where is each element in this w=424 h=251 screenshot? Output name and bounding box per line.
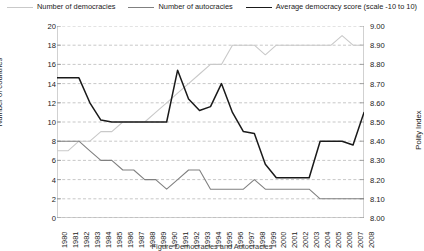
y-tick-label: 14 [48, 79, 56, 88]
y-tick-label: 8.70 [370, 79, 385, 88]
legend-item-autocracies: Number of autocracies [128, 3, 232, 11]
line-swatch-icon [7, 7, 33, 8]
y-tick-label: 8 [52, 137, 56, 146]
line-swatch-icon [246, 7, 272, 8]
series-line-0 [57, 36, 364, 151]
y-tick-label: 0 [52, 214, 56, 223]
chart-canvas [57, 26, 364, 218]
y-tick-label: 8.80 [370, 60, 385, 69]
y-tick-label: 16 [48, 60, 56, 69]
y-tick-label: 4 [52, 175, 56, 184]
y-tick-label: 8.40 [370, 137, 385, 146]
y-tick-label: 8.60 [370, 98, 385, 107]
legend-label-autocracies: Number of autocracies [158, 3, 232, 11]
y-tick-label: 2 [52, 194, 56, 203]
series-line-2 [57, 70, 364, 178]
y-tick-label: 10 [48, 118, 56, 127]
y-tick-label: 8.20 [370, 175, 385, 184]
y-axis-right-title: Polity Index [414, 85, 423, 175]
y-tick-label: 8.00 [370, 214, 385, 223]
y-tick-label: 20 [48, 22, 56, 31]
plot-area [57, 26, 364, 218]
legend-label-democracies: Number of democracies [37, 3, 115, 11]
chart-legend: Number of democracies Number of autocrac… [0, 0, 424, 14]
y-tick-label: 8.50 [370, 118, 385, 127]
y-tick-label: 12 [48, 98, 56, 107]
y-tick-label: 8.90 [370, 41, 385, 50]
chart-root: Number of democracies Number of autocrac… [0, 0, 424, 251]
figure-caption: Figure Democracies and Autocracies [0, 242, 424, 251]
y-tick-label: 6 [52, 156, 56, 165]
legend-item-democracy-score: Average democracy score (scale -10 to 10… [246, 3, 417, 11]
y-tick-label: 8.10 [370, 194, 385, 203]
line-swatch-icon [128, 7, 154, 8]
legend-label-democracy-score: Average democracy score (scale -10 to 10… [276, 3, 417, 11]
y-tick-label: 9.00 [370, 22, 385, 31]
y-tick-label: 18 [48, 41, 56, 50]
legend-item-democracies: Number of democracies [7, 3, 115, 11]
y-tick-label: 8.30 [370, 156, 385, 165]
y-axis-left-title: Number of countries [0, 32, 4, 152]
